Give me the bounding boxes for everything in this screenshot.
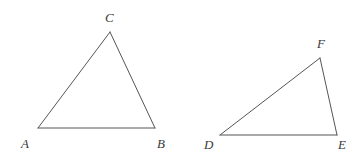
vertex-label-b: B	[157, 137, 165, 150]
side-FD	[220, 58, 320, 135]
triangle-def	[220, 58, 337, 135]
vertex-label-c: C	[105, 11, 114, 24]
side-CA	[38, 32, 110, 128]
triangle-abc	[38, 32, 155, 128]
vertex-label-d: D	[204, 138, 213, 151]
figure-svg	[0, 0, 364, 163]
vertex-label-a: A	[21, 137, 29, 150]
geometry-figure: ABCDEF	[0, 0, 364, 163]
vertex-label-e: E	[338, 138, 346, 151]
side-EF	[320, 58, 337, 135]
side-BC	[110, 32, 155, 128]
vertex-label-f: F	[317, 37, 325, 50]
